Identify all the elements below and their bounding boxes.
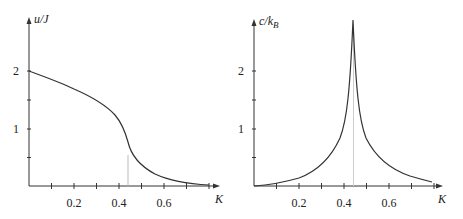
right-chart-c-over-kB: 0.2 0.4 0.6 1 2 c/kB K (238, 14, 447, 210)
x-tick-label: 0.2 (292, 196, 307, 210)
y-tick-label: 2 (13, 64, 19, 78)
x-tick-label: 0.2 (67, 196, 82, 210)
x-axis-title: K (437, 192, 447, 206)
c-over-kB-curve (254, 20, 432, 186)
y-tick-label: 1 (238, 122, 244, 136)
u-over-J-curve (29, 71, 209, 185)
x-tick-label: 0.4 (337, 196, 352, 210)
left-chart-u-over-J: 0.2 0.4 0.6 1 2 u/J K (13, 12, 224, 210)
y-tick-label: 1 (13, 122, 19, 136)
y-axis-title: c/kB (259, 14, 279, 30)
x-axis-arrow-icon (213, 184, 220, 189)
y-tick-label: 2 (238, 64, 244, 78)
x-tick-label: 0.6 (382, 196, 397, 210)
x-axis-title: K (214, 192, 224, 206)
x-axis-arrow-icon (436, 184, 443, 189)
y-axis-arrow-icon (252, 19, 257, 26)
figure: 0.2 0.4 0.6 1 2 u/J K 0.2 0.4 0.6 1 2 c/… (0, 0, 463, 219)
x-tick-label: 0.4 (112, 196, 127, 210)
y-axis-title: u/J (34, 12, 49, 26)
x-tick-label: 0.6 (157, 196, 172, 210)
y-axis-arrow-icon (27, 17, 32, 24)
